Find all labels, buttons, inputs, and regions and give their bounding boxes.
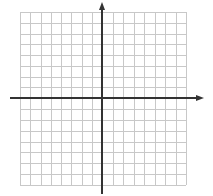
grid-lines [20,12,187,186]
x-axis-arrow-icon [196,95,204,101]
axes [10,2,204,194]
y-axis-arrow-icon [99,2,105,10]
coordinate-plane [0,0,213,196]
